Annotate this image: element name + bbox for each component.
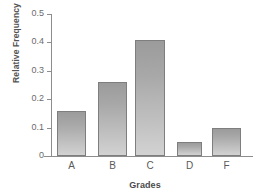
y-tick-label: 0.4 (20, 37, 44, 46)
y-tick-label: 0.2 (20, 94, 44, 103)
y-tick-label: 0.5 (20, 9, 44, 18)
y-tick-label: 0.3 (20, 66, 44, 75)
x-tick-label-F: F (212, 160, 241, 171)
y-tick-4: 0.4 (16, 37, 44, 47)
x-axis-title: Grades (45, 180, 245, 190)
relative-frequency-bar-chart: Relative Frequency 00.10.20.30.40.5 ABCD… (0, 0, 259, 196)
y-tick-label: 0.1 (20, 123, 44, 132)
x-tick-label-C: C (135, 160, 165, 171)
x-tick-label-A: A (57, 160, 86, 171)
x-tick-label-D: D (177, 160, 202, 171)
y-tick-5: 0.5 (16, 9, 44, 19)
bar-A (57, 111, 86, 156)
y-tick-1: 0.1 (16, 123, 44, 133)
x-axis-line (44, 156, 253, 157)
bar-F (212, 128, 241, 156)
y-tick-0: 0 (16, 151, 44, 161)
y-tick-label: 0 (20, 151, 44, 160)
x-tick-label-B: B (98, 160, 127, 171)
y-tick-2: 0.2 (16, 94, 44, 104)
y-tick-3: 0.3 (16, 66, 44, 76)
y-axis-line (51, 14, 52, 157)
bar-D (177, 142, 202, 156)
bar-B (98, 82, 127, 156)
bar-C (135, 40, 165, 156)
